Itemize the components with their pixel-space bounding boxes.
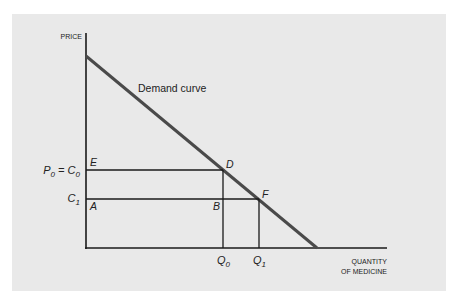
point-label-d: D [226, 158, 234, 170]
quantity-label-q1: Q1 [253, 254, 266, 269]
x-axis-label-line1: QUANTITY [352, 258, 388, 266]
point-label-a: A [89, 200, 97, 212]
x-axis-label-line2: OF MEDICINE [341, 268, 387, 275]
cost-label-c1: C1 [68, 192, 80, 207]
demand-curve-label: Demand curve [138, 82, 206, 94]
point-label-e: E [90, 156, 98, 168]
point-label-f: F [262, 188, 269, 200]
y-axis-label: PRICE [61, 33, 83, 40]
quantity-label-q0: Q0 [217, 254, 231, 269]
demand-diagram: PRICE QUANTITY OF MEDICINE Demand curve … [0, 0, 459, 301]
price-label-p0: P0 = C0 [43, 164, 80, 179]
point-label-b: B [213, 200, 220, 212]
